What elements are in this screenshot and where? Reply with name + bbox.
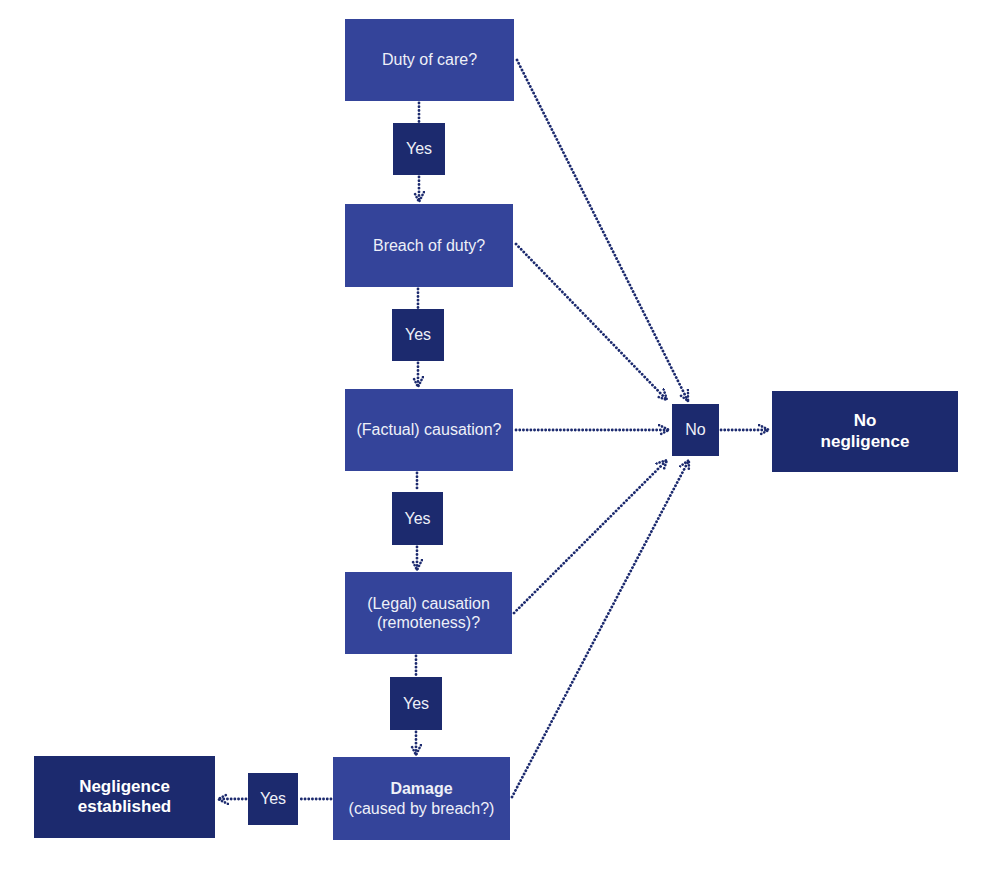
factual-causation-label: (Factual) causation? <box>357 420 502 439</box>
yes-box-5: Yes <box>248 773 298 825</box>
duty-of-care-box: Duty of care? <box>345 19 514 101</box>
yes-label-3: Yes <box>404 509 430 528</box>
legal-causation-line1: (Legal) causation <box>367 594 490 613</box>
edge-legal-no <box>514 460 667 613</box>
yes-box-3: Yes <box>392 492 443 545</box>
yes-box-1: Yes <box>393 123 445 175</box>
no-label: No <box>685 420 705 439</box>
edge-damage-no <box>512 460 689 797</box>
no-negligence-line2: negligence <box>821 432 910 452</box>
yes-label-5: Yes <box>260 789 286 808</box>
edge-duty-no <box>517 60 688 401</box>
no-box: No <box>672 404 719 456</box>
yes-box-4: Yes <box>390 677 442 730</box>
no-negligence-line1: No <box>854 411 877 431</box>
factual-causation-box: (Factual) causation? <box>345 389 513 471</box>
no-negligence-box: No negligence <box>772 391 958 472</box>
legal-causation-box: (Legal) causation (remoteness)? <box>345 572 512 654</box>
breach-of-duty-label: Breach of duty? <box>373 236 485 255</box>
damage-line2: (caused by breach?) <box>349 799 495 818</box>
duty-of-care-label: Duty of care? <box>382 50 477 69</box>
damage-box: Damage (caused by breach?) <box>333 757 510 840</box>
yes-label-2: Yes <box>405 325 431 344</box>
yes-label-1: Yes <box>406 139 432 158</box>
damage-line1: Damage <box>390 779 452 798</box>
negligence-established-line2: established <box>78 797 172 817</box>
yes-label-4: Yes <box>403 694 429 713</box>
negligence-established-box: Negligence established <box>34 756 215 838</box>
negligence-established-line1: Negligence <box>79 777 170 797</box>
edge-breach-no <box>516 244 667 400</box>
breach-of-duty-box: Breach of duty? <box>345 204 513 287</box>
legal-causation-line2: (remoteness)? <box>377 613 480 632</box>
yes-box-2: Yes <box>392 309 444 361</box>
